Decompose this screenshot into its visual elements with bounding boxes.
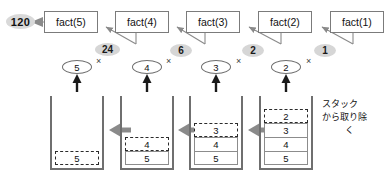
stack-cell: 4 <box>125 137 169 151</box>
call-box-fact-3[interactable]: fact(3) <box>186 11 240 33</box>
multiplier-ellipse-4: 4 <box>132 60 162 74</box>
call-box-fact-4[interactable]: fact(4) <box>115 11 169 33</box>
stack-cell: 5 <box>125 151 169 165</box>
return-value-24: 24 <box>95 43 120 56</box>
multiplier-ellipse-3: 3 <box>201 60 231 74</box>
push-arrow-up-3 <box>212 74 221 92</box>
stack-cells: 2 3 4 5 <box>264 109 308 165</box>
stack-step-1: 2 3 4 5 <box>259 96 313 170</box>
stack-step-2: 3 4 5 <box>189 96 243 170</box>
stack-cell: 2 <box>264 109 308 123</box>
stack-cells: 5 <box>55 151 99 165</box>
return-value-6: 6 <box>170 44 192 57</box>
stack-cell: 4 <box>194 137 238 151</box>
stack-cell: 3 <box>194 123 238 137</box>
push-arrow-up-1 <box>73 74 82 92</box>
stack-cells: 4 5 <box>125 137 169 165</box>
call-box-fact-1[interactable]: fact(1) <box>330 11 384 33</box>
push-arrow-up-2 <box>143 74 152 92</box>
call-box-fact-2[interactable]: fact(2) <box>258 11 312 33</box>
times-symbol-1: × <box>96 57 101 66</box>
factorial-recursion-diagram: 120 fact(5) fact(4) fact(3) fact(2) fact… <box>0 0 391 178</box>
stack-step-4: 5 <box>50 96 104 170</box>
stack-cell: 5 <box>55 151 99 165</box>
final-result-badge: 120 <box>6 14 35 29</box>
stack-cells: 3 4 5 <box>194 123 238 165</box>
annotation-line-1: スタック <box>322 98 376 111</box>
stack-cell: 4 <box>264 137 308 151</box>
times-symbol-4: × <box>306 57 311 66</box>
times-symbol-2: × <box>166 57 171 66</box>
stack-cell: 3 <box>264 123 308 137</box>
call-box-fact-5[interactable]: fact(5) <box>44 11 98 33</box>
multiplier-ellipse-2: 2 <box>271 60 301 74</box>
push-arrow-up-4 <box>282 74 291 92</box>
pop-from-stack-annotation: スタック から取り除 く <box>322 98 376 137</box>
annotation-line-3: く <box>322 124 376 137</box>
stack-cell: 5 <box>194 151 238 165</box>
return-value-2: 2 <box>242 44 264 57</box>
multiplier-ellipse-5: 5 <box>62 60 92 74</box>
stack-cell: 5 <box>264 151 308 165</box>
stack-step-3: 4 5 <box>120 96 174 170</box>
times-symbol-3: × <box>236 57 241 66</box>
return-value-1: 1 <box>314 44 336 57</box>
annotation-line-2: から取り除 <box>322 111 376 124</box>
